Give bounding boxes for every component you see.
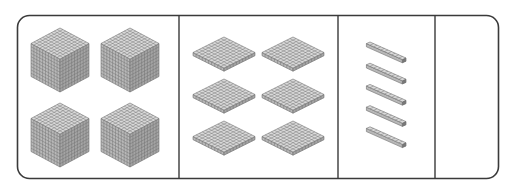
place-value-mat <box>0 0 510 188</box>
tens-column <box>366 42 406 148</box>
hundred-flat <box>262 79 324 113</box>
block-left-face <box>366 44 402 63</box>
hundred-flat <box>193 121 255 155</box>
hundreds-column <box>193 37 324 155</box>
ten-rod <box>366 63 406 84</box>
block-left-face <box>366 128 402 147</box>
thousand-cube <box>101 103 159 167</box>
block-left-face <box>366 107 402 126</box>
thousand-cube <box>101 28 159 92</box>
thousands-column <box>31 28 159 167</box>
ten-rod <box>366 127 406 148</box>
ten-rod <box>366 84 406 105</box>
hundred-flat <box>262 37 324 71</box>
thousand-cube <box>31 103 89 167</box>
mat-border <box>18 16 499 179</box>
hundred-flat <box>193 37 255 71</box>
thousand-cube <box>31 28 89 92</box>
hundred-flat <box>262 121 324 155</box>
block-left-face <box>366 86 402 105</box>
ten-rod <box>366 42 406 63</box>
hundred-flat <box>193 79 255 113</box>
block-left-face <box>366 65 402 84</box>
ten-rod <box>366 106 406 127</box>
